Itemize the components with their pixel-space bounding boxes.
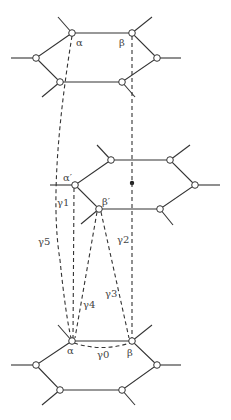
label-bot-beta: β (127, 347, 133, 358)
label-top-beta: β (119, 37, 125, 48)
top-hexagon (11, 17, 181, 97)
label-gamma5: γ5 (38, 236, 50, 247)
label-mid-alpha: α′ (63, 172, 73, 183)
bottom-nodes (33, 338, 161, 394)
label-gamma2: γ2 (117, 234, 129, 245)
middle-hexagon (50, 145, 220, 225)
label-top-alpha: α (76, 37, 83, 48)
label-mid-beta: β′ (102, 196, 111, 207)
label-bot-alpha: α (67, 345, 74, 356)
label-gamma3: γ3 (105, 288, 117, 299)
label-gamma4: γ4 (83, 299, 95, 310)
label-gamma0: γ0 (97, 349, 109, 360)
label-gamma1: γ1 (57, 197, 69, 208)
hexagon-paths-diagram: α β α′ β′ α β γ0 γ1 γ2 γ3 γ4 γ5 (0, 0, 231, 420)
